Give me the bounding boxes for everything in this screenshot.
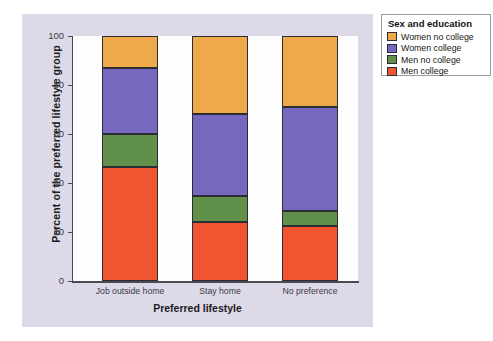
legend-color-swatch bbox=[387, 32, 397, 41]
legend-item-label: Women no college bbox=[401, 32, 474, 42]
y-tick-label: 20 bbox=[24, 226, 64, 237]
y-tick-label: 100 bbox=[24, 30, 64, 41]
y-tick-label: 60 bbox=[24, 128, 64, 139]
y-tick-label: 0 bbox=[24, 275, 64, 286]
bar-segment bbox=[192, 196, 248, 222]
chart-figure-panel: Percent of the preferred lifestyle group… bbox=[22, 14, 373, 327]
legend-item-label: Men no college bbox=[401, 55, 461, 65]
legend-items: Women no collegeWomen collegeMen no coll… bbox=[387, 31, 486, 77]
bar-segment bbox=[282, 36, 338, 107]
legend-item: Women college bbox=[387, 43, 486, 54]
bar-segment bbox=[282, 211, 338, 226]
bar-segment bbox=[192, 114, 248, 196]
legend-item: Women no college bbox=[387, 31, 486, 42]
x-axis-title: Preferred lifestyle bbox=[22, 302, 373, 314]
y-tick-mark bbox=[68, 183, 72, 185]
y-tick-label: 80 bbox=[24, 79, 64, 90]
y-tick-mark bbox=[68, 85, 72, 87]
bar-segment bbox=[282, 107, 338, 211]
y-tick-mark bbox=[68, 36, 72, 38]
bar-segment bbox=[192, 222, 248, 281]
y-tick-mark bbox=[68, 232, 72, 234]
x-axis-line bbox=[72, 281, 359, 283]
legend-color-swatch bbox=[387, 44, 397, 53]
legend-title: Sex and education bbox=[388, 18, 486, 29]
y-tick-mark bbox=[68, 281, 72, 283]
x-tick-label: No preference bbox=[255, 286, 365, 296]
bar-segment bbox=[102, 167, 158, 281]
legend: Sex and education Women no collegeWomen … bbox=[381, 14, 491, 76]
legend-item: Men no college bbox=[387, 54, 486, 65]
bar-segment bbox=[102, 134, 158, 168]
bar-segment bbox=[192, 36, 248, 114]
legend-item: Men college bbox=[387, 66, 486, 77]
legend-item-label: Men college bbox=[401, 66, 448, 76]
y-tick-label: 40 bbox=[24, 177, 64, 188]
legend-color-swatch bbox=[387, 67, 397, 76]
bar-segment bbox=[102, 36, 158, 68]
bar-segment bbox=[102, 68, 158, 134]
legend-item-label: Women college bbox=[401, 43, 461, 53]
y-tick-mark bbox=[68, 134, 72, 136]
legend-color-swatch bbox=[387, 55, 397, 64]
bar-segment bbox=[282, 226, 338, 281]
